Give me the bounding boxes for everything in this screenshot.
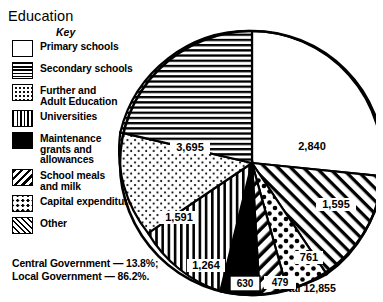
slice-label-secondary-schools: 3,695 (176, 141, 204, 153)
slice-label-capital-expenditure: 761 (300, 251, 318, 263)
legend-item-label: Universities (40, 110, 97, 123)
pie-chart-svg: 2,840 3,695 1,591 1,264 630 479 761 (118, 18, 376, 302)
legend-item-label-line1: Further and (40, 85, 96, 96)
legend-item-label-line1: School meals (40, 170, 105, 181)
pie-chart: 2,840 3,695 1,591 1,264 630 479 761 (118, 18, 376, 302)
page-title: Education (8, 8, 73, 24)
swatch-horizontal-lines-icon (12, 62, 33, 79)
slice-label-primary-schools: 2,840 (298, 140, 326, 152)
slice-label-maintenance-grants: 630 (237, 278, 254, 289)
slice-label-universities: 1,264 (192, 259, 220, 271)
pie-slices (119, 31, 376, 295)
swatch-fine-dots-icon (12, 84, 33, 101)
swatch-large-dots-icon (12, 195, 33, 212)
swatch-plain-icon (12, 40, 33, 57)
slice-label-further-adult-education: 1,591 (165, 211, 193, 223)
legend-item-label-line1: Maintenance (40, 133, 101, 144)
legend-item-label: Other (40, 217, 67, 230)
swatch-thin-slash-icon (12, 217, 33, 234)
legend-item-label: School mealsand milk (40, 169, 105, 192)
legend-item-label-line3: allowances (40, 155, 101, 166)
education-pie-chart-figure: Education Key Primary schools Secondary … (0, 0, 383, 302)
legend-item-label-line2: and milk (40, 182, 105, 193)
legend-item-label: Primary schools (40, 40, 119, 53)
swatch-vertical-lines-icon (12, 110, 33, 127)
slice-label-school-meals: 479 (272, 277, 289, 288)
legend-item-label: Maintenancegrants andallowances (40, 132, 101, 166)
slice-label-other: 1,595 (322, 198, 350, 210)
swatch-solid-black-icon (12, 132, 33, 149)
key-heading: Key (56, 26, 75, 38)
legend-item-label-line2: Adult Education (40, 97, 117, 108)
legend-item-label: Further andAdult Education (40, 84, 117, 107)
swatch-thick-backslash-icon (12, 169, 33, 186)
pie-slice-primary-schools (252, 31, 376, 176)
